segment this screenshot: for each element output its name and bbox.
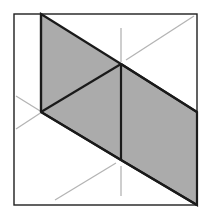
- figure-canvas: [0, 0, 212, 220]
- geometric-figure-svg: [0, 0, 212, 220]
